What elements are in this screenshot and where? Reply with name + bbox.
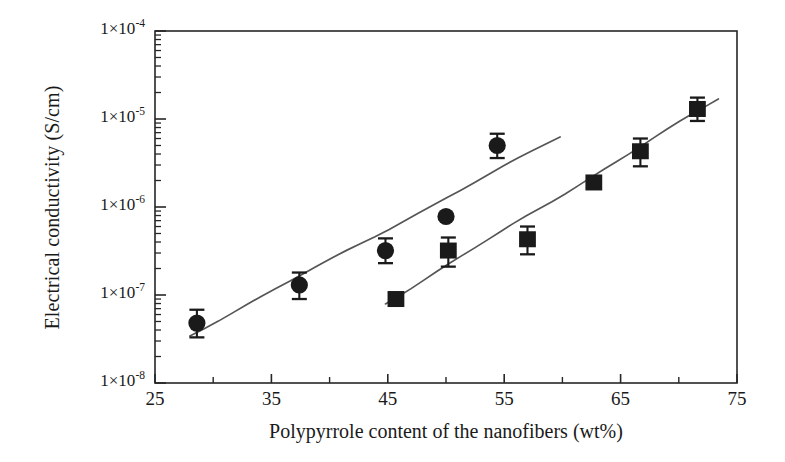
- data-point-circle: [489, 134, 506, 158]
- data-point-square: [519, 227, 536, 255]
- plot-frame: [155, 31, 737, 383]
- marker-circle: [188, 314, 205, 331]
- data-point-square: [585, 174, 602, 190]
- marker-square: [388, 291, 405, 307]
- data-point-circle: [188, 310, 205, 338]
- trendline: [385, 99, 718, 304]
- marker-square: [585, 174, 602, 190]
- marker-circle: [291, 276, 308, 293]
- data-point-circle: [437, 208, 454, 225]
- marker-circle: [377, 242, 394, 259]
- data-point-square: [689, 98, 706, 121]
- marker-circle: [489, 137, 506, 154]
- data-point-circle: [291, 273, 308, 299]
- marker-square: [519, 231, 536, 247]
- trendline: [190, 137, 560, 336]
- data-point-square: [388, 291, 405, 307]
- data-point-circle: [377, 238, 394, 263]
- marker-square: [632, 143, 649, 159]
- plot-area: [0, 0, 785, 462]
- chart-figure: Electrical conductivity (S/cm) Polypyrro…: [0, 0, 785, 462]
- marker-square: [440, 243, 457, 259]
- data-point-square: [440, 238, 457, 267]
- marker-square: [689, 101, 706, 117]
- marker-circle: [437, 208, 454, 225]
